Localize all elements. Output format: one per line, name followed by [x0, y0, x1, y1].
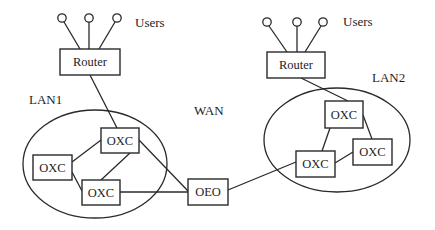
users-right-label: Users	[343, 15, 373, 28]
user-icon	[319, 18, 327, 26]
link-lan2-top-bottom	[322, 128, 330, 151]
lan2-label: LAN2	[372, 71, 405, 84]
right-user-links	[269, 26, 321, 52]
link-lan2-bottom-right	[335, 152, 353, 163]
link-router-right-oxc	[301, 78, 348, 101]
link-lan1-top-bottom	[101, 153, 130, 180]
oxc-lan2-right-label: OXC	[353, 146, 392, 159]
user-icon	[263, 18, 271, 26]
users-left-label: Users	[135, 16, 165, 29]
oxc-lan1-bottom-label: OXC	[82, 187, 120, 200]
left-user-links	[64, 22, 115, 49]
oxc-lan1-left-label: OXC	[33, 162, 72, 175]
right-users	[263, 18, 327, 26]
user-icon	[85, 14, 93, 22]
router-right-label: Router	[267, 59, 325, 72]
oxc-lan2-top-label: OXC	[325, 109, 363, 122]
user-icon	[113, 14, 121, 22]
link-lan1-left-bottom	[72, 172, 82, 191]
router-left-label: Router	[60, 56, 120, 69]
link-lan2-top-right	[363, 115, 372, 139]
link-oeo-lan2	[228, 162, 296, 190]
user-icon	[58, 14, 66, 22]
oeo-label: OEO	[188, 186, 228, 199]
link-router-left-oxc	[90, 75, 117, 128]
lan1-label: LAN1	[29, 93, 62, 106]
left-users	[58, 14, 121, 22]
wan-label: WAN	[194, 104, 224, 117]
oxc-lan1-top-label: OXC	[101, 135, 139, 148]
oxc-lan2-bottom-label: OXC	[296, 158, 335, 171]
link-lan1-top-left	[72, 140, 101, 162]
user-icon	[293, 18, 301, 26]
